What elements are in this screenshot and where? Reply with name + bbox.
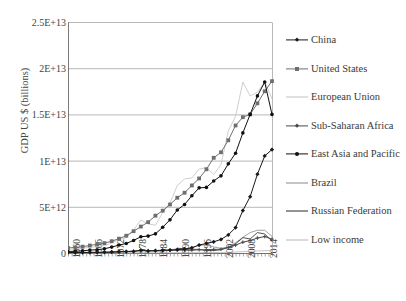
legend-label: Brazil [311,178,337,189]
legend-marker-icon [286,64,308,74]
legend-label: United States [311,64,367,75]
plot-svg [68,22,274,265]
legend-item-united-states[interactable]: United States [286,55,406,84]
legend-label: Sub-Saharan Africa [311,121,394,132]
legend-marker-icon [286,235,308,245]
legend-marker-icon [286,35,308,45]
series-united-states [68,79,274,250]
legend-marker-icon [286,149,308,159]
legend-item-low-income[interactable]: Low income [286,226,406,255]
legend-label: European Union [311,92,380,103]
series-east-asia-and-pacific [68,80,274,253]
plot-area [68,22,272,253]
legend-item-sub-saharan-africa[interactable]: Sub-Saharan Africa [286,112,406,141]
chart-legend: ChinaUnited StatesEuropean UnionSub-Saha… [286,26,406,254]
legend-label: East Asia and Pacific [311,149,400,160]
series-european-union [68,82,272,250]
legend-marker-icon [286,206,308,216]
legend-item-brazil[interactable]: Brazil [286,169,406,198]
legend-label: China [311,35,336,46]
legend-label: Low income [311,235,364,246]
legend-marker-icon [286,92,308,102]
legend-marker-icon [286,121,308,131]
gdp-line-chart: GDP US $ (billions) 05E+121E+131.5E+132E… [0,0,406,301]
legend-label: Russian Federation [311,206,392,217]
legend-item-european-union[interactable]: European Union [286,83,406,112]
legend-item-russian-federation[interactable]: Russian Federation [286,197,406,226]
legend-marker-icon [286,178,308,188]
legend-item-china[interactable]: China [286,26,406,55]
legend-item-east-asia-and-pacific[interactable]: East Asia and Pacific [286,140,406,169]
